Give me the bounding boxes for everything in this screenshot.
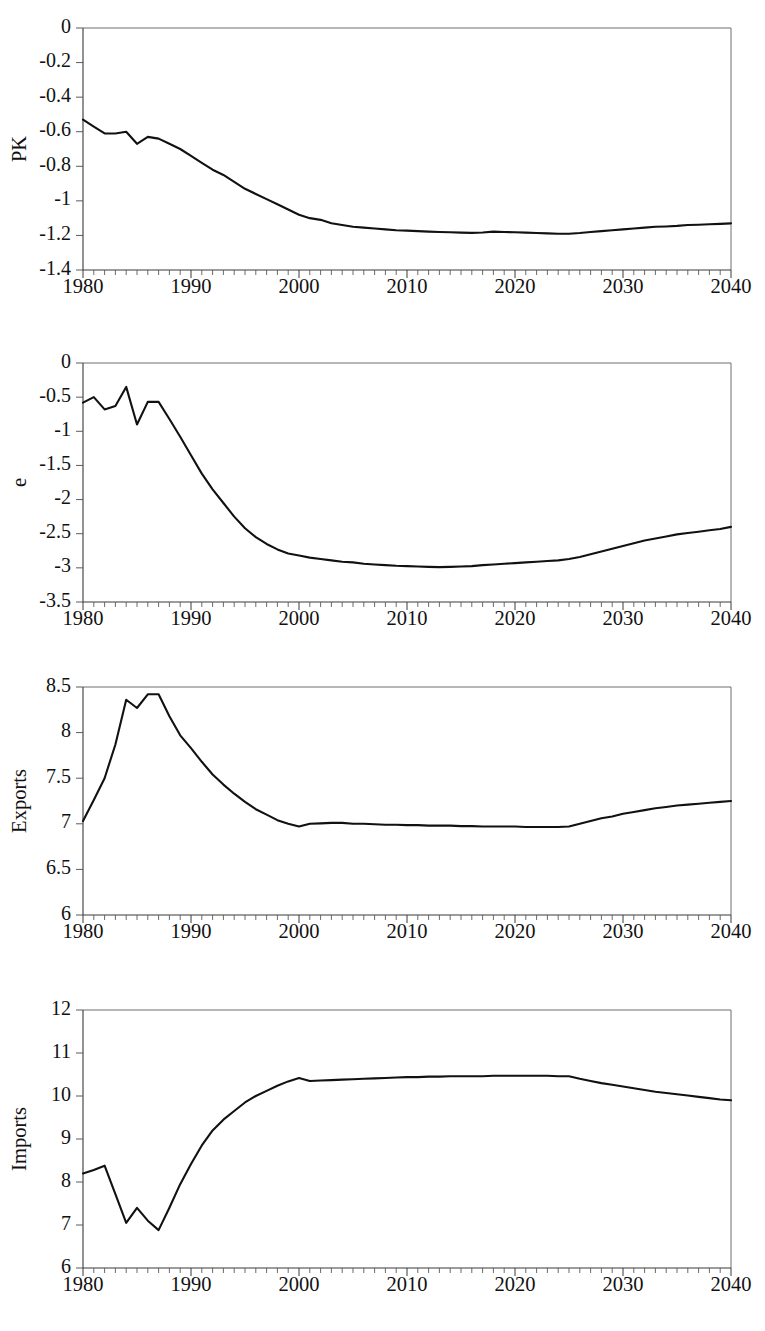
y-axis-title: Exports — [8, 769, 31, 833]
y-tick-label: 9 — [61, 1126, 71, 1148]
y-tick-label: -1.2 — [39, 222, 71, 244]
y-tick-label: 7.5 — [46, 765, 71, 787]
y-tick-label: -0.8 — [39, 153, 71, 175]
y-tick-label: -3 — [54, 554, 71, 576]
chart-panel-imports: 12111098761980199020002010202020302040Im… — [0, 985, 765, 1331]
data-series-line — [83, 387, 731, 567]
data-series-line — [83, 1076, 731, 1230]
x-tick-label: 2020 — [495, 275, 536, 297]
x-tick-label: 2010 — [387, 1273, 428, 1295]
y-axis-ticks: 0-0.5-1-1.5-2-2.5-3-3.5 — [39, 350, 83, 611]
y-tick-label: 6.5 — [46, 856, 71, 878]
y-tick-label: -2.5 — [39, 520, 71, 542]
x-tick-label: 1980 — [63, 275, 104, 297]
x-tick-label: 2020 — [495, 607, 536, 629]
chart-panel-exports: 8.587.576.561980199020002010202020302040… — [0, 665, 765, 965]
y-tick-label: 12 — [51, 997, 71, 1019]
chart-panel-e: 0-0.5-1-1.5-2-2.5-3-3.519801990200020102… — [0, 337, 765, 645]
y-tick-label: -0.4 — [39, 84, 71, 106]
x-tick-label: 2000 — [279, 275, 320, 297]
chart-svg-imports: 12111098761980199020002010202020302040Im… — [0, 985, 765, 1331]
plot-frame — [83, 687, 731, 915]
y-tick-label: -1 — [54, 187, 71, 209]
y-tick-label: -0.6 — [39, 118, 71, 140]
chart-svg-exports: 8.587.576.561980199020002010202020302040… — [0, 665, 765, 965]
plot-axes — [83, 687, 731, 915]
x-tick-label: 2000 — [279, 920, 320, 942]
y-tick-label: 0 — [61, 350, 71, 372]
x-tick-label: 2040 — [711, 920, 752, 942]
plot-axes — [83, 1010, 731, 1268]
x-axis-labels: 1980199020002010202020302040 — [63, 607, 752, 629]
x-tick-label: 1990 — [171, 607, 212, 629]
x-tick-label: 2030 — [603, 607, 644, 629]
plot-frame — [83, 1010, 731, 1268]
y-tick-label: -0.2 — [39, 49, 71, 71]
y-tick-label: -0.5 — [39, 384, 71, 406]
x-tick-label: 2040 — [711, 275, 752, 297]
chart-panel-pk: 0-0.2-0.4-0.6-0.8-1-1.2-1.41980199020002… — [0, 0, 765, 310]
x-tick-label: 2000 — [279, 1273, 320, 1295]
data-series-line — [83, 694, 731, 827]
chart-svg-pk: 0-0.2-0.4-0.6-0.8-1-1.2-1.41980199020002… — [0, 0, 765, 310]
y-axis-title: Imports — [8, 1107, 31, 1171]
y-tick-label: 8 — [61, 719, 71, 741]
x-tick-label: 1980 — [63, 920, 104, 942]
x-axis-labels: 1980199020002010202020302040 — [63, 920, 752, 942]
x-tick-label: 1990 — [171, 1273, 212, 1295]
y-axis-ticks: 1211109876 — [51, 997, 83, 1277]
y-axis-ticks: 0-0.2-0.4-0.6-0.8-1-1.2-1.4 — [39, 15, 83, 279]
x-tick-label: 2030 — [603, 275, 644, 297]
x-tick-label: 1980 — [63, 1273, 104, 1295]
y-tick-label: 7 — [61, 1212, 71, 1234]
y-tick-label: 8.5 — [46, 674, 71, 696]
x-tick-label: 2030 — [603, 1273, 644, 1295]
y-tick-label: -2 — [54, 486, 71, 508]
data-series-line — [83, 120, 731, 234]
y-tick-label: -1 — [54, 418, 71, 440]
x-tick-label: 1990 — [171, 920, 212, 942]
y-axis-title: PK — [8, 136, 30, 162]
y-tick-label: 7 — [61, 810, 71, 832]
y-tick-label: 8 — [61, 1169, 71, 1191]
x-tick-label: 2020 — [495, 1273, 536, 1295]
x-tick-label: 2020 — [495, 920, 536, 942]
x-tick-label: 2010 — [387, 607, 428, 629]
y-axis-title: e — [8, 478, 30, 487]
x-tick-label: 2040 — [711, 1273, 752, 1295]
x-tick-label: 2040 — [711, 607, 752, 629]
y-tick-label: 0 — [61, 15, 71, 37]
x-tick-label: 1980 — [63, 607, 104, 629]
y-tick-label: 10 — [51, 1083, 71, 1105]
x-axis-labels: 1980199020002010202020302040 — [63, 275, 752, 297]
x-tick-label: 2010 — [387, 920, 428, 942]
x-tick-label: 2030 — [603, 920, 644, 942]
y-tick-label: -1.5 — [39, 452, 71, 474]
figure-page: 0-0.2-0.4-0.6-0.8-1-1.2-1.41980199020002… — [0, 0, 765, 1331]
x-axis-labels: 1980199020002010202020302040 — [63, 1273, 752, 1295]
x-tick-label: 2000 — [279, 607, 320, 629]
chart-svg-e: 0-0.5-1-1.5-2-2.5-3-3.519801990200020102… — [0, 337, 765, 645]
y-axis-ticks: 8.587.576.56 — [46, 674, 83, 924]
x-tick-label: 1990 — [171, 275, 212, 297]
x-tick-label: 2010 — [387, 275, 428, 297]
y-tick-label: 11 — [52, 1040, 71, 1062]
